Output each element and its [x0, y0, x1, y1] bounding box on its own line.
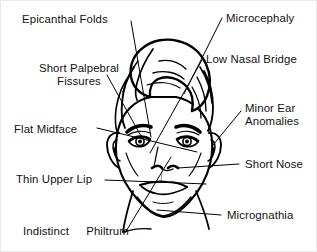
- label-epicanthal-folds: Epicanthal Folds: [22, 13, 108, 26]
- right-eye-crease: [177, 131, 199, 135]
- label-philtrum-word: Philtrum: [86, 225, 129, 237]
- label-short-palpebral-line2: Fissures: [23, 75, 135, 88]
- label-minor-ear-line2: Anomalies: [245, 115, 299, 128]
- label-short-palpebral-line1: Short Palpebral: [23, 62, 135, 75]
- label-thin-upper-lip: Thin Upper Lip: [16, 173, 92, 186]
- leader-micrognathia: [157, 210, 221, 215]
- nose-right-nostril: [168, 166, 178, 168]
- label-indistinct-philtrum: Indistinct Philtrum: [23, 225, 129, 238]
- neck-right: [196, 191, 209, 229]
- nose-bridge: [154, 147, 158, 167]
- label-flat-midface: Flat Midface: [14, 123, 77, 136]
- label-minor-ear-anomalies: Minor Ear Anomalies: [245, 102, 299, 128]
- chin-crease: [153, 202, 173, 204]
- nose-left-nostril: [152, 166, 162, 168]
- right-cheek-line: [189, 153, 201, 176]
- label-microcephaly: Microcephaly: [226, 12, 294, 25]
- left-cheek-line: [126, 153, 138, 176]
- left-pupil: [138, 140, 142, 144]
- label-minor-ear-line1: Minor Ear: [245, 102, 299, 115]
- label-micrognathia: Micrognathia: [227, 209, 293, 222]
- leader-minor-ear-anomalies: [213, 111, 241, 145]
- label-indistinct-word: Indistinct: [23, 225, 69, 237]
- label-low-nasal-bridge: Low Nasal Bridge: [206, 53, 297, 66]
- diagram-frame: Epicanthal Folds Short Palpebral Fissure…: [0, 0, 317, 252]
- label-short-palpebral-fissures: Short Palpebral Fissures: [23, 62, 135, 88]
- label-short-nose: Short Nose: [245, 158, 303, 171]
- right-pupil: [185, 140, 189, 144]
